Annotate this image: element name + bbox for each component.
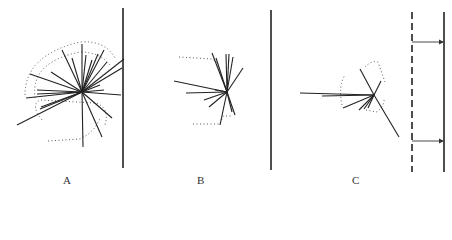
dotted-outline-c [341, 75, 345, 105]
ray-line-b [216, 58, 227, 92]
panel-label-a: A [63, 174, 71, 186]
ray-line-a [82, 59, 124, 92]
ray-line-a [82, 92, 83, 147]
ray-line-b [227, 92, 235, 115]
ray-line-a [17, 92, 82, 125]
ray-line-a [82, 92, 121, 95]
ray-line-a [82, 92, 112, 118]
dotted-outline-b [193, 116, 232, 124]
ray-line-c [360, 69, 374, 95]
ray-line-c [374, 81, 381, 95]
dotted-outline-b [179, 57, 218, 63]
ray-line-a [82, 92, 102, 137]
ray-line-c [322, 95, 374, 96]
ray-line-b [186, 92, 227, 93]
panel-label-b: B [197, 174, 204, 186]
ray-line-b [204, 92, 227, 100]
panel-label-c: C [352, 174, 359, 186]
ray-line-c [374, 95, 399, 137]
dotted-outline-c [365, 62, 385, 82]
dotted-outline-a [48, 118, 100, 141]
ray-line-a [37, 90, 82, 92]
